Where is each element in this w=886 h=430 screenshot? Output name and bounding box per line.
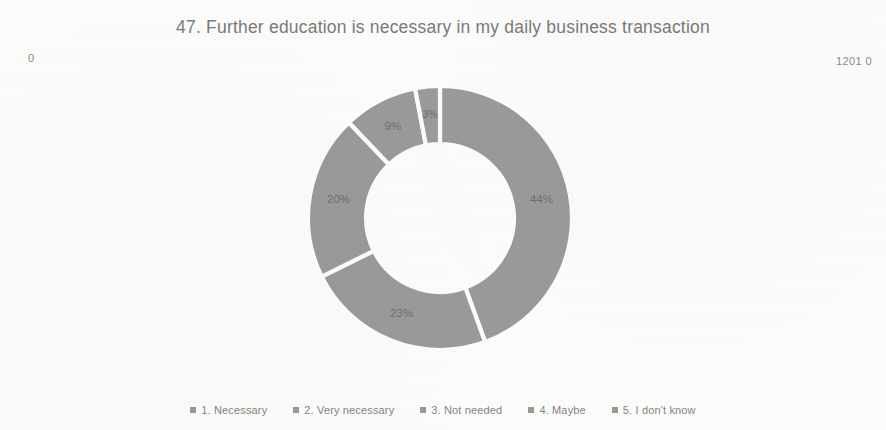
donut-slice-label: 44% [530, 193, 553, 205]
legend-item-label: 5. I don't know [623, 404, 696, 416]
square-marker-icon [528, 407, 534, 413]
donut-slice-label: 3% [423, 108, 438, 120]
legend-item-label: 3. Not needed [431, 404, 502, 416]
legend-item-label: 2. Very necessary [304, 404, 394, 416]
legend-item[interactable]: 2. Very necessary [293, 404, 394, 416]
donut-slice-label: 20% [327, 193, 350, 205]
square-marker-icon [293, 407, 299, 413]
donut-chart-svg: 44%23%20%9%3% [296, 82, 584, 354]
corner-label-right: 1201 0 [836, 55, 872, 67]
square-marker-icon [420, 407, 426, 413]
donut-slice-label: 9% [385, 120, 402, 132]
corner-label-left: 0 [28, 52, 35, 64]
legend-item[interactable]: 5. I don't know [612, 404, 696, 416]
square-marker-icon [190, 407, 196, 413]
legend-item-label: 1. Necessary [201, 404, 267, 416]
donut-chart: 44%23%20%9%3% [296, 82, 584, 354]
legend-item[interactable]: 1. Necessary [190, 404, 267, 416]
square-marker-icon [612, 407, 618, 413]
chart-legend: 1. Necessary2. Very necessary3. Not need… [0, 404, 886, 416]
legend-item[interactable]: 4. Maybe [528, 404, 585, 416]
legend-item-label: 4. Maybe [539, 404, 585, 416]
donut-slices [308, 86, 572, 350]
donut-slice-label: 23% [390, 307, 413, 319]
chart-title: 47. Further education is necessary in my… [0, 17, 886, 38]
legend-item[interactable]: 3. Not needed [420, 404, 502, 416]
chart-card: 47. Further education is necessary in my… [0, 0, 886, 430]
